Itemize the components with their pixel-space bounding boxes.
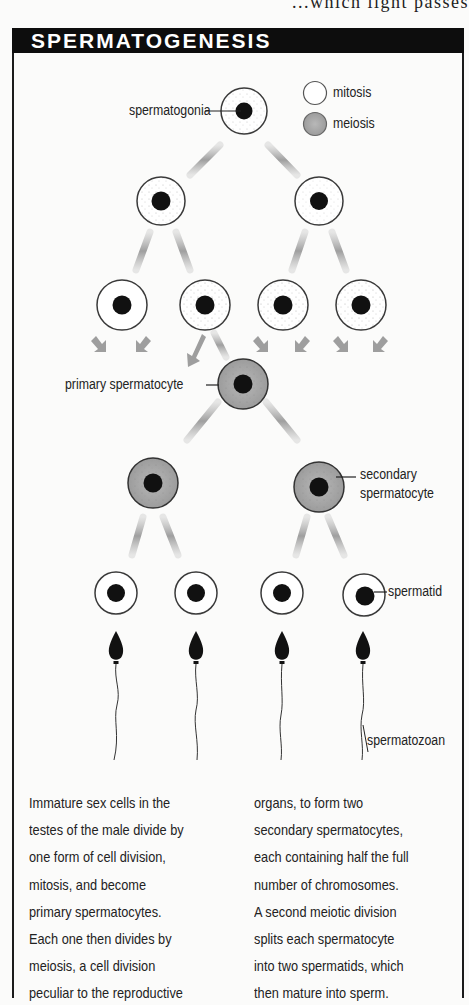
caption-line: Immature sex cells in the <box>29 790 205 817</box>
caption-line: peculiar to the reproductive <box>29 980 205 1005</box>
caption-line: each containing half the full <box>254 844 430 871</box>
caption-line: secondary spermatocytes, <box>254 817 430 844</box>
caption-line: meiosis, a cell division <box>29 953 205 980</box>
legend-label-mitosis: mitosis <box>333 84 371 100</box>
caption-line: mitosis, and become <box>29 872 205 899</box>
caption-line: primary spermatocytes. <box>29 899 205 926</box>
cell-primary-spermatocyte <box>218 359 268 409</box>
caption-left-column: Immature sex cells in the testes of the … <box>29 790 205 1005</box>
legend-meiosis-icon <box>304 113 327 136</box>
caption-line: into two spermatids, which <box>254 953 430 980</box>
label-spermatozoan: spermatozoan <box>367 732 445 748</box>
caption-line: splits each spermatocyte <box>254 926 430 953</box>
spermatozoa <box>109 631 370 760</box>
caption-line: one form of cell division, <box>29 844 205 871</box>
label-spermatogonia: spermatogonia <box>129 102 211 118</box>
caption-line: Each one then divides by <box>29 926 205 953</box>
cell-mitosis-l3 <box>97 280 386 330</box>
label-primary-spermatocyte: primary spermatocyte <box>65 376 183 392</box>
caption-line: testes of the male divide by <box>29 817 205 844</box>
cell-secondary-spermatocytes <box>128 458 344 512</box>
label-spermatid: spermatid <box>388 583 442 599</box>
cell-mitosis-l2 <box>137 177 343 225</box>
legend-mitosis-icon <box>304 82 327 105</box>
caption-line: number of chromosomes. <box>254 872 430 899</box>
caption-line: organs, to form two <box>254 790 430 817</box>
label-secondary-spermatocyte-line2: spermatocyte <box>360 485 434 501</box>
caption-line: then mature into sperm. <box>254 980 430 1005</box>
label-secondary-spermatocyte-line1: secondary <box>360 466 417 482</box>
legend-icons <box>304 82 327 136</box>
caption-line: A second meiotic division <box>254 899 430 926</box>
cell-spermatids <box>95 572 385 616</box>
legend-label-meiosis: meiosis <box>333 115 375 131</box>
caption-right-column: organs, to form two secondary spermatocy… <box>254 790 430 1005</box>
